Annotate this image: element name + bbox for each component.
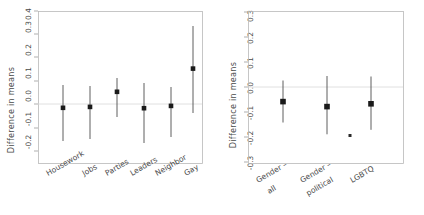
x-category-label-jobs: Jobs [80,162,99,178]
y-tick-label-left-5: 0.3 [24,21,33,33]
data-point-neighbor [169,87,174,137]
y-tick-label-right-1: -0.2 [246,131,255,145]
y-tick-label-left-3: 0.1 [24,67,33,79]
data-point-jobs [88,86,93,139]
x-category-label-neighbor: Neighbor [154,152,189,178]
data-point-lgbtq [368,77,374,130]
y-tick-label-right-4: 0.1 [246,57,255,69]
y-tick-label-left-0: -0.2 [24,135,33,149]
figure-container: Difference in means -0.2 -0.1 0.0 0.1 0.… [0,0,424,215]
y-tick-label-left-4: 0.2 [24,44,33,56]
y-tick-label-left-2: 0.0 [24,90,33,102]
data-point-leaders [142,83,147,143]
x-category-label-gay: Gay [183,162,201,178]
y-tick-label-right-0: -0.3 [246,155,255,170]
plot-left: Difference in means -0.2 -0.1 0.0 0.1 0.… [0,0,212,215]
data-point-gender-political [324,76,330,134]
plot-frame-right [249,12,404,164]
chart-panel-right: Difference in means -0.3 -0.2 -0.1 0.0 0… [212,0,424,215]
data-point-parties [115,78,120,117]
data-series-left [61,26,196,143]
plot-right: Difference in means -0.3 -0.2 -0.1 0.0 0… [212,0,424,215]
x-category-label-gender-political: Gender – political [299,160,335,198]
stray-marker-artifact [349,134,352,137]
data-series-right [280,76,374,137]
y-tick-label-right-3: 0.0 [246,82,255,94]
x-category-label-lgbtq: LGBTQ [349,164,376,185]
y-tick-label-right-2: -0.1 [246,105,255,120]
y-axis-title-left: Difference in means [6,67,16,153]
data-point-gay [191,26,196,113]
x-category-label-parties: Parties [104,157,131,178]
x-category-label-gender-all: Gender – all [255,160,289,196]
y-axis-title-right: Difference in means [228,62,238,148]
chart-panel-left: Difference in means -0.2 -0.1 0.0 0.1 0.… [0,0,212,215]
svg-text:all: all [266,184,278,196]
data-point-housework [61,85,66,141]
y-axis-ticks-left [34,11,38,151]
x-category-label-leaders: Leaders [129,155,160,178]
y-tick-label-right-5: 0.2 [246,32,255,44]
y-tick-label-left-1: -0.1 [24,111,33,126]
y-tick-label-left-6: 0.4 [24,8,33,20]
svg-text:LGBTQ: LGBTQ [349,164,376,185]
